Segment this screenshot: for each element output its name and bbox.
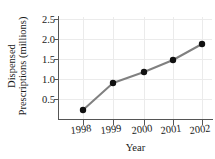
y-axis-title-text: Dispensed Prescriptions (millions) [6,17,28,116]
plot-area [58,17,212,119]
line-chart-figure: Dispensed Prescriptions (millions) 2.5 2… [0,0,215,159]
y-tick-label-2.5: 2.5 [33,15,55,26]
data-point-1998 [80,107,86,113]
y-tick-label-2.0: 2.0 [33,35,55,46]
x-tick-label-2000: 2000 [131,123,153,136]
y-axis-title-line-1: Dispensed [6,17,17,116]
y-tick-label-1.0: 1.0 [33,75,55,86]
horizontal-gridlines [58,20,212,100]
series-line [83,44,202,110]
data-point-2002 [199,41,205,47]
y-axis-tick-labels: 2.5 2.0 1.5 1.0 0.5 [31,0,55,159]
data-point-2001 [170,57,176,63]
x-tick-label-2002: 2002 [189,123,211,136]
data-point-2000 [141,69,147,75]
y-tick-label-0.5: 0.5 [33,95,55,106]
plot-svg [58,17,212,119]
x-axis-spine [58,119,213,120]
x-tick-label-1998: 1998 [70,123,92,136]
y-axis-spine [58,16,59,120]
x-tick-label-1999: 1999 [100,123,122,136]
x-tick-label-2001: 2001 [160,123,182,136]
data-point-1999 [110,80,116,86]
vertical-gridlines [84,17,203,119]
y-tick-label-1.5: 1.5 [33,55,55,66]
y-axis-title: Dispensed Prescriptions (millions) [0,0,34,132]
y-axis-title-line-2: Prescriptions (millions) [17,17,28,116]
x-axis-title: Year [58,143,213,154]
